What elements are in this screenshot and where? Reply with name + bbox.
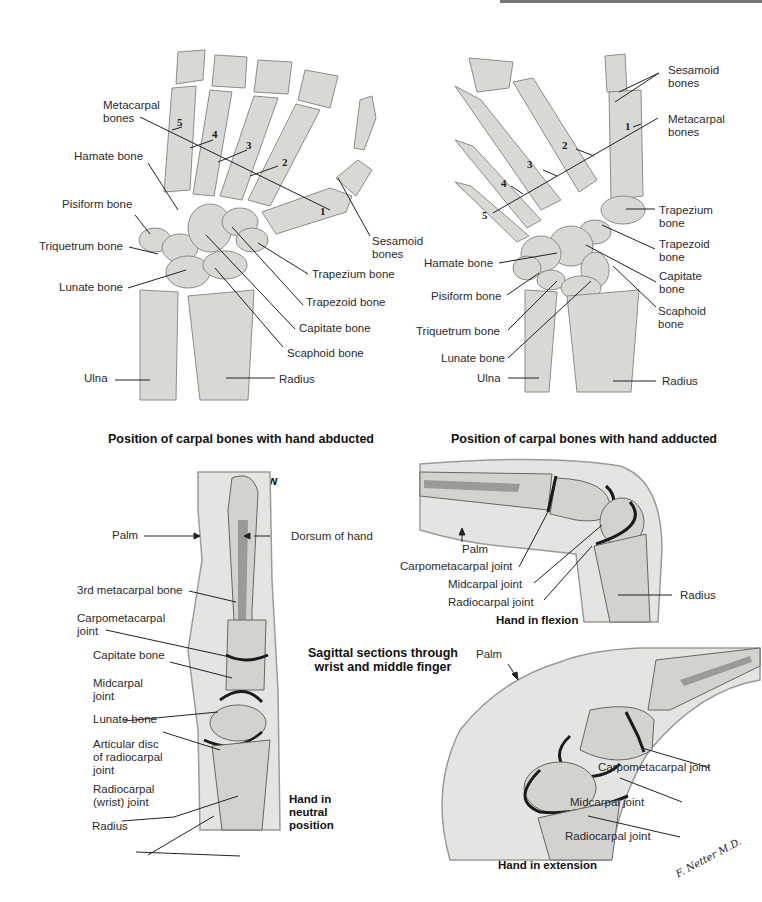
abducted-view-panel: Metacarpal bones 5 4 3 2 1 Hamate bone P…: [0, 0, 381, 440]
label-ulna: Ulna: [84, 372, 108, 385]
label-triquetrum-bone: Triquetrum bone: [39, 240, 123, 253]
label-carpometacarpal-joint: Carpometacarpal joint: [400, 560, 513, 573]
label-radius: Radius: [92, 820, 128, 833]
label-number-3: 3: [527, 158, 533, 170]
label-trapezium-bone: Trapezium bone: [659, 204, 713, 230]
neutral-sagittal-section-illustration: [0, 450, 381, 902]
label-trapezoid-bone: Trapezoid bone: [306, 296, 386, 309]
label-ulna: Ulna: [477, 372, 501, 385]
label-number-4: 4: [212, 128, 218, 140]
label-midcarpal-joint: Midcarpal joint: [570, 796, 644, 809]
label-pisiform-bone: Pisiform bone: [431, 290, 501, 303]
label-lunate-bone: Lunate bone: [59, 281, 123, 294]
label-radius: Radius: [662, 375, 698, 388]
label-number-3: 3: [246, 139, 252, 151]
label-lunate-bone: Lunate bone: [441, 352, 505, 365]
label-scaphoid-bone: Scaphoid bone: [287, 347, 364, 360]
abducted-hand-bones-illustration: [0, 0, 381, 440]
label-radius: Radius: [680, 589, 716, 602]
label-number-2: 2: [282, 156, 288, 168]
label-pisiform-bone: Pisiform bone: [62, 198, 132, 211]
label-number-1: 1: [625, 120, 631, 132]
label-palm: Palm: [476, 648, 502, 661]
label-metacarpal-bones: Metacarpal bones: [668, 113, 725, 139]
label-midcarpal-joint: Midcarpal joint: [93, 677, 143, 703]
label-scaphoid-bone: Scaphoid bone: [658, 305, 706, 331]
extension-caption: Hand in extension: [498, 859, 597, 872]
abducted-caption-line1: Position of carpal bones with hand abduc…: [108, 432, 370, 446]
label-capitate-bone: Capitate bone: [659, 270, 702, 296]
label-number-4: 4: [501, 177, 507, 189]
label-number-2: 2: [562, 139, 568, 151]
label-number-5: 5: [177, 116, 183, 128]
label-palm: Palm: [462, 543, 488, 556]
label-capitate-bone: Capitate bone: [299, 322, 371, 335]
label-radius: Radius: [279, 373, 315, 386]
extension-section-panel: Palm Carpometacarpal joint Midcarpal joi…: [420, 640, 762, 902]
label-radiocarpal-wrist-joint: Radiocarpal (wrist) joint: [93, 783, 154, 809]
label-lunate-bone: Lunate bone: [93, 713, 157, 726]
flexion-section-panel: Palm Carpometacarpal joint Midcarpal joi…: [400, 450, 762, 630]
adducted-caption-line1: Position of carpal bones with hand adduc…: [451, 432, 713, 446]
label-number-1: 1: [320, 205, 326, 217]
label-sesamoid-bones: Sesamoid bones: [668, 64, 719, 90]
label-dorsum-of-hand: Dorsum of hand: [291, 530, 373, 543]
label-midcarpal-joint: Midcarpal joint: [448, 578, 522, 591]
neutral-caption: Hand in neutral position: [289, 793, 334, 832]
label-trapezoid-bone: Trapezoid bone: [659, 238, 710, 264]
label-radiocarpal-joint: Radiocarpal joint: [565, 830, 651, 843]
label-3rd-metacarpal-bone: 3rd metacarpal bone: [77, 584, 182, 597]
label-articular-disc: Articular disc of radiocarpal joint: [93, 738, 163, 777]
label-radiocarpal-joint: Radiocarpal joint: [448, 596, 534, 609]
label-carpometacarpal-joint: Carpometacarpal joint: [598, 761, 711, 774]
flexion-caption: Hand in flexion: [496, 614, 578, 627]
label-triquetrum-bone: Triquetrum bone: [416, 325, 500, 338]
label-hamate-bone: Hamate bone: [74, 150, 143, 163]
label-carpometacarpal-joint: Carpometacarpal joint: [77, 612, 165, 638]
label-palm: Palm: [112, 529, 138, 542]
neutral-section-panel: Palm Dorsum of hand 3rd metacarpal bone …: [0, 450, 381, 902]
label-number-5: 5: [482, 209, 488, 221]
adducted-view-panel: Sesamoid bones Metacarpal bones 1 2 3 4 …: [381, 0, 762, 440]
label-metacarpal-bones: Metacarpal bones: [103, 99, 160, 125]
label-capitate-bone: Capitate bone: [93, 649, 165, 662]
label-hamate-bone: Hamate bone: [424, 257, 493, 270]
